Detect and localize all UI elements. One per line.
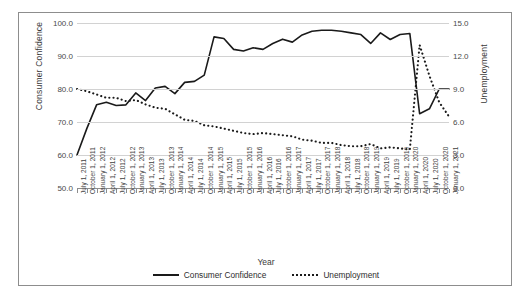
legend-item-consumer-confidence: Consumer Confidence: [153, 270, 267, 280]
x-axis-label: October 1, 2011: [89, 147, 96, 194]
x-axis-label: April 1, 2019: [383, 157, 390, 194]
x-axis-title: Year: [19, 257, 513, 267]
x-tick: [126, 189, 127, 193]
x-axis-label: January 1, 2020: [412, 147, 419, 194]
x-axis-label: April 1, 2015: [226, 157, 233, 194]
x-axis-label: April 1, 2018: [344, 157, 351, 194]
x-axis-label: January 1, 2016: [256, 147, 263, 194]
x-axis-label: January 1, 2014: [177, 147, 184, 194]
x-axis-label: April 1, 2014: [187, 157, 194, 194]
y-axis-right-title: Unemployment: [479, 14, 489, 134]
gridline: [77, 89, 449, 90]
x-tick: [390, 189, 391, 193]
legend-item-unemployment: Unemployment: [292, 270, 379, 280]
x-tick: [283, 189, 284, 193]
x-tick: [234, 189, 235, 193]
y-left-tick-50: 50.0: [39, 184, 73, 193]
x-tick: [204, 189, 205, 193]
x-tick: [214, 189, 215, 193]
clipped-header-strip: [0, 0, 530, 11]
x-tick: [175, 189, 176, 193]
x-tick: [361, 189, 362, 193]
x-axis-label: October 1, 2017: [324, 147, 331, 194]
x-axis-label: January 1, 2018: [334, 147, 341, 194]
x-tick: [351, 189, 352, 193]
x-axis-label: October 1, 2019: [403, 147, 410, 194]
legend-label-consumer-confidence: Consumer Confidence: [184, 270, 267, 280]
legend-label-unemployment: Unemployment: [323, 270, 379, 280]
x-tick: [194, 189, 195, 193]
legend-swatch-dotted-icon: [292, 274, 318, 276]
x-tick: [420, 189, 421, 193]
x-axis-label: July 1, 2017: [315, 158, 322, 194]
x-tick: [380, 189, 381, 193]
y-left-tick-70: 70.0: [39, 118, 73, 127]
x-tick: [429, 189, 430, 193]
gridline: [77, 122, 449, 123]
x-axis-label: July 1, 2012: [119, 158, 126, 194]
line-consumer-confidence: [77, 30, 449, 155]
x-axis-label: April 1, 2016: [266, 157, 273, 194]
x-axis-label: July 1, 2013: [158, 158, 165, 194]
x-axis-label: October 1, 2015: [246, 147, 253, 194]
x-axis-label: October 1, 2020: [442, 147, 449, 194]
x-tick: [449, 189, 450, 193]
x-tick: [332, 189, 333, 193]
x-axis-label: April 1, 2020: [422, 157, 429, 194]
x-tick: [165, 189, 166, 193]
x-axis-label: April 1, 2012: [109, 157, 116, 194]
x-tick: [341, 189, 342, 193]
gridline: [77, 23, 449, 24]
x-axis-labels: July 1, 2011October 1, 2011January 1, 20…: [77, 194, 449, 256]
y-left-tick-90: 90.0: [39, 52, 73, 61]
chart-frame: 100.0 90.0 80.0 70.0 60.0 50.0 15.0 12.0…: [18, 12, 512, 286]
x-axis-label: October 1, 2012: [129, 147, 136, 194]
x-tick: [292, 189, 293, 193]
x-tick: [439, 189, 440, 193]
x-tick: [243, 189, 244, 193]
x-tick: [116, 189, 117, 193]
x-axis-label: January 1, 2012: [99, 147, 106, 194]
y-left-tick-60: 60.0: [39, 151, 73, 160]
x-tick: [263, 189, 264, 193]
chart-legend: Consumer Confidence Unemployment: [19, 268, 513, 282]
x-tick: [302, 189, 303, 193]
x-axis-label: January 1, 2015: [217, 147, 224, 194]
y-left-tick-100: 100.0: [39, 19, 73, 28]
x-axis-label: January 1, 2013: [138, 147, 145, 194]
x-axis-label: January 1, 2017: [295, 147, 302, 194]
x-axis-label: October 1, 2016: [285, 147, 292, 194]
x-axis-label: October 1, 2018: [363, 147, 370, 194]
x-axis-label: April 1, 2013: [148, 157, 155, 194]
x-tick: [106, 189, 107, 193]
x-axis-label: January 1, 2019: [373, 147, 380, 194]
y-left-tick-80: 80.0: [39, 85, 73, 94]
legend-swatch-solid-icon: [153, 274, 179, 276]
x-tick: [371, 189, 372, 193]
x-axis-label: July 1, 2018: [354, 158, 361, 194]
x-tick: [97, 189, 98, 193]
x-axis-label: January 1, 2021: [452, 147, 459, 194]
x-axis-label: July 1, 2015: [236, 158, 243, 194]
x-tick: [146, 189, 147, 193]
x-axis-label: July 1, 2019: [393, 158, 400, 194]
x-axis-label: April 1, 2017: [305, 157, 312, 194]
x-tick: [77, 189, 78, 193]
x-axis-label: October 1, 2014: [207, 147, 214, 194]
chart-figure: 100.0 90.0 80.0 70.0 60.0 50.0 15.0 12.0…: [0, 0, 530, 299]
x-tick: [155, 189, 156, 193]
x-axis-label: July 1, 2016: [275, 158, 282, 194]
x-tick: [312, 189, 313, 193]
gridline: [77, 56, 449, 57]
x-tick: [400, 189, 401, 193]
x-axis-label: July 1, 2014: [197, 158, 204, 194]
x-axis-label: July 1, 2020: [432, 158, 439, 194]
x-tick: [253, 189, 254, 193]
x-axis-label: October 1, 2013: [168, 147, 175, 194]
x-axis-label: July 1, 2011: [80, 159, 87, 194]
x-tick: [185, 189, 186, 193]
y-axis-left-title: Consumer Confidence: [34, 6, 44, 126]
